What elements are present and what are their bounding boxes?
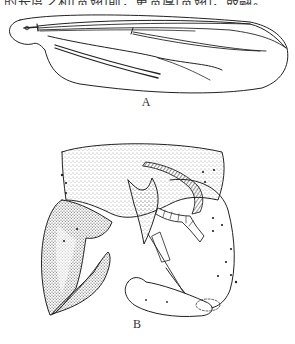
gonostylus-right [125, 278, 212, 317]
figure-illustration: A [0, 0, 295, 344]
wing-outline [9, 15, 287, 93]
panel-label-b: B [133, 317, 141, 331]
panel-label-a: A [142, 95, 151, 109]
genitalia-drawing [41, 144, 237, 317]
wing-drawing [9, 15, 287, 93]
